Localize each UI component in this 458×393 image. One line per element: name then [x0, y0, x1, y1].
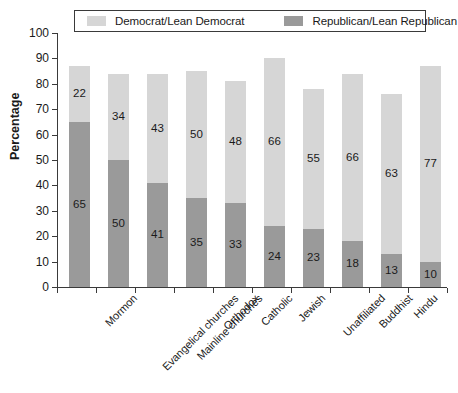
- y-tick-label: 50: [36, 153, 49, 167]
- x-category-label: Hindu: [411, 292, 439, 320]
- bar-stack[interactable]: 2265: [69, 66, 90, 287]
- x-category-label: Mormon: [102, 292, 139, 329]
- bar-stack[interactable]: 3450: [108, 74, 129, 287]
- bar-value-republican: 35: [190, 237, 203, 249]
- y-tick-label: 0: [42, 280, 49, 294]
- x-category-label-line: Mormon: [102, 292, 139, 329]
- bar-value-republican: 18: [346, 258, 359, 270]
- bar-value-democrat: 43: [151, 123, 164, 135]
- y-tick-label: 90: [36, 51, 49, 65]
- chart-legend: Democrat/Lean Democrat Republican/Lean R…: [74, 10, 426, 32]
- bar-value-republican: 50: [112, 218, 125, 230]
- bar-value-democrat: 66: [346, 152, 359, 164]
- bar-segment-republican[interactable]: 13: [381, 254, 402, 287]
- bar-segment-democrat[interactable]: 55: [303, 89, 324, 229]
- y-tick-label: 80: [36, 77, 49, 91]
- bar-value-democrat: 50: [190, 129, 203, 141]
- x-category-label: Jewish: [295, 292, 327, 324]
- bar-segment-democrat[interactable]: 50: [186, 71, 207, 198]
- x-category-label: Catholic: [258, 292, 294, 328]
- bar-stack[interactable]: 6313: [381, 94, 402, 287]
- bar-segment-democrat[interactable]: 43: [147, 74, 168, 183]
- y-tick-label: 30: [36, 204, 49, 218]
- bar-segment-democrat[interactable]: 22: [69, 66, 90, 122]
- bar-stack[interactable]: 6618: [342, 74, 363, 287]
- bar-value-republican: 41: [151, 229, 164, 241]
- y-tick-label: 40: [36, 178, 49, 192]
- bar-segment-republican[interactable]: 35: [186, 198, 207, 287]
- plot-area: 2265345043415035483366245523661863137710: [57, 33, 447, 287]
- bar-value-republican: 65: [73, 199, 86, 211]
- bar-segment-democrat[interactable]: 66: [342, 74, 363, 242]
- bar-value-democrat: 34: [112, 111, 125, 123]
- bar-value-republican: 10: [424, 269, 437, 281]
- bar-segment-republican[interactable]: 50: [108, 160, 129, 287]
- legend-label-republican: Republican/Lean Republican: [312, 15, 456, 27]
- y-axis-title: Percentage: [8, 93, 22, 160]
- bar-stack[interactable]: 5035: [186, 71, 207, 287]
- y-tick-label: 20: [36, 229, 49, 243]
- bar-stack[interactable]: 6624: [264, 58, 285, 287]
- x-category-label-line: Jewish: [295, 292, 327, 324]
- bar-value-republican: 23: [307, 252, 320, 264]
- bar-segment-republican[interactable]: 65: [69, 122, 90, 287]
- bar-segment-republican[interactable]: 10: [420, 262, 441, 287]
- bar-value-democrat: 63: [385, 168, 398, 180]
- x-category-label-line: Unaffiliated: [340, 292, 386, 338]
- bar-segment-democrat[interactable]: 63: [381, 94, 402, 254]
- y-tick-label: 60: [36, 128, 49, 142]
- x-category-label-line: Catholic: [258, 292, 294, 328]
- y-tick-label: 100: [29, 26, 49, 40]
- bar-value-democrat: 77: [424, 158, 437, 170]
- legend-swatch-republican: [284, 16, 303, 26]
- bar-segment-republican[interactable]: 33: [225, 203, 246, 287]
- bar-segment-democrat[interactable]: 48: [225, 81, 246, 203]
- bar-value-democrat: 22: [73, 88, 86, 100]
- bar-value-democrat: 66: [268, 136, 281, 148]
- bar-stack[interactable]: 7710: [420, 66, 441, 287]
- y-tick-label: 10: [36, 255, 49, 269]
- bar-stack[interactable]: 4833: [225, 81, 246, 287]
- bar-segment-republican[interactable]: 18: [342, 241, 363, 287]
- bar-segment-democrat[interactable]: 77: [420, 66, 441, 262]
- bar-segment-republican[interactable]: 23: [303, 229, 324, 287]
- x-category-label-line: Hindu: [411, 292, 439, 320]
- legend-swatch-democrat: [87, 16, 106, 26]
- bar-value-democrat: 48: [229, 136, 242, 148]
- y-tick-label: 70: [36, 102, 49, 116]
- bar-stack[interactable]: 5523: [303, 89, 324, 287]
- bar-value-republican: 13: [385, 265, 398, 277]
- legend-label-democrat: Democrat/Lean Democrat: [115, 15, 244, 27]
- bar-stack[interactable]: 4341: [147, 74, 168, 287]
- x-axis-category-labels: MormonEvangelical churchesMainline churc…: [57, 292, 457, 372]
- bar-value-democrat: 55: [307, 153, 320, 165]
- x-category-label: Unaffiliated: [340, 292, 386, 338]
- bar-segment-democrat[interactable]: 66: [264, 58, 285, 226]
- bar-segment-democrat[interactable]: 34: [108, 74, 129, 160]
- legend-item-republican: Republican/Lean Republican: [284, 11, 456, 31]
- bar-value-republican: 33: [229, 239, 242, 251]
- bar-segment-republican[interactable]: 41: [147, 183, 168, 287]
- bar-segment-republican[interactable]: 24: [264, 226, 285, 287]
- bar-value-republican: 24: [268, 251, 281, 263]
- legend-item-democrat: Democrat/Lean Democrat: [87, 11, 244, 31]
